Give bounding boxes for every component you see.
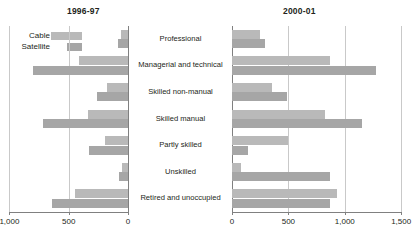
- tick-right-0: [232, 212, 233, 215]
- tick-label-left-0: 0: [126, 217, 130, 226]
- bar-2000-01-satellite-skilled-manual: [232, 119, 362, 128]
- bar-2000-01-satellite-professional: [232, 39, 265, 48]
- category-label-managerial-and-technical: Managerial and technical: [129, 60, 232, 70]
- category-label-partly-skilled: Partly skilled: [129, 140, 232, 150]
- category-label-professional: Professional: [129, 34, 232, 44]
- bar-2000-01-cable-managerial-and-technical: [232, 56, 330, 65]
- chart-root: 1996-97 2000-01 Cable Satellite Professi…: [0, 0, 417, 239]
- bar-1996-97-cable-professional: [121, 30, 128, 39]
- tick-right-1000: [345, 212, 346, 215]
- tick-left-0: [128, 212, 129, 215]
- bar-2000-01-cable-retired-and-unoccupied: [232, 189, 337, 198]
- bar-1996-97-satellite-skilled-non-manual: [97, 92, 128, 101]
- category-label-unskilled: Unskilled: [129, 167, 232, 177]
- category-label-retired-and-unoccupied: Retired and unoccupied: [129, 193, 232, 203]
- bar-2000-01-satellite-retired-and-unoccupied: [232, 199, 330, 208]
- tick-right-500: [288, 212, 289, 215]
- tick-left-1000: [9, 212, 10, 215]
- bar-2000-01-cable-professional: [232, 30, 260, 39]
- gridline-right-1500: [401, 26, 402, 212]
- panel-title-left: 1996-97: [67, 6, 100, 16]
- axis-line-right: [232, 212, 402, 213]
- bar-2000-01-satellite-skilled-non-manual: [232, 92, 287, 101]
- bar-2000-01-cable-partly-skilled: [232, 136, 288, 145]
- bar-1996-97-satellite-managerial-and-technical: [33, 66, 128, 75]
- bar-1996-97-cable-partly-skilled: [105, 136, 128, 145]
- category-label-skilled-manual: Skilled manual: [129, 114, 232, 124]
- bar-1996-97-cable-skilled-non-manual: [107, 83, 128, 92]
- tick-label-right-0: 0: [230, 217, 234, 226]
- bar-1996-97-cable-unskilled: [122, 163, 128, 172]
- bar-2000-01-satellite-partly-skilled: [232, 146, 248, 155]
- tick-label-left-500: 500: [62, 217, 75, 226]
- bar-1996-97-satellite-retired-and-unoccupied: [52, 199, 128, 208]
- bar-2000-01-satellite-managerial-and-technical: [232, 66, 376, 75]
- bar-2000-01-cable-skilled-non-manual: [232, 83, 272, 92]
- bar-1996-97-satellite-professional: [118, 39, 128, 48]
- bar-1996-97-cable-retired-and-unoccupied: [75, 189, 128, 198]
- tick-left-500: [69, 212, 70, 215]
- bar-1996-97-cable-skilled-manual: [88, 110, 128, 119]
- bar-2000-01-satellite-unskilled: [232, 172, 330, 181]
- panel-title-right: 2000-01: [283, 6, 316, 16]
- bar-2000-01-cable-skilled-manual: [232, 110, 325, 119]
- bar-1996-97-satellite-unskilled: [119, 172, 128, 181]
- tick-label-right-1500: 1,500: [391, 217, 411, 226]
- tick-label-left-1000: 1,000: [0, 217, 19, 226]
- tick-label-right-1000: 1,000: [335, 217, 355, 226]
- category-label-column: ProfessionalManagerial and technicalSkil…: [129, 26, 232, 212]
- bar-2000-01-cable-unskilled: [232, 163, 241, 172]
- bar-1996-97-satellite-skilled-manual: [43, 119, 128, 128]
- category-label-skilled-non-manual: Skilled non-manual: [129, 87, 232, 97]
- tick-right-1500: [401, 212, 402, 215]
- tick-label-right-500: 500: [282, 217, 295, 226]
- gridline-left-1000: [9, 26, 10, 212]
- bar-1996-97-satellite-partly-skilled: [89, 146, 128, 155]
- bar-1996-97-cable-managerial-and-technical: [79, 56, 128, 65]
